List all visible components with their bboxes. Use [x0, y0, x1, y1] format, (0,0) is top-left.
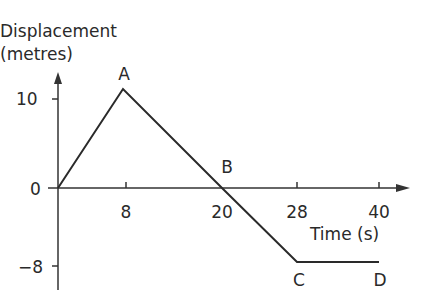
point-label-c: C: [293, 270, 305, 290]
x-tick-8: 8: [121, 202, 132, 222]
point-label-d: D: [373, 270, 386, 290]
y-axis-label-line2: (metres): [0, 44, 73, 64]
y-tick-neg8: −8: [18, 257, 43, 277]
displacement-time-graph: Displacement (metres) Time (s) 10 0 −8 8…: [0, 0, 423, 306]
x-axis-label: Time (s): [309, 224, 379, 244]
x-tick-20: 20: [211, 202, 233, 222]
y-axis-label-line1: Displacement: [0, 21, 117, 41]
x-axis-arrow-icon: [396, 184, 410, 192]
point-label-a: A: [118, 64, 130, 84]
x-tick-28: 28: [286, 202, 308, 222]
y-tick-10: 10: [16, 89, 38, 109]
x-tick-40: 40: [368, 202, 390, 222]
y-tick-0: 0: [30, 179, 41, 199]
y-axis-arrow-icon: [54, 72, 62, 84]
point-label-b: B: [221, 157, 233, 177]
